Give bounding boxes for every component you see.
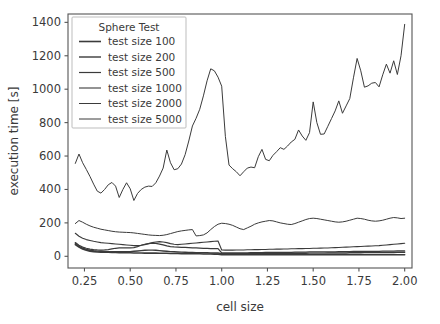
legend-label-test-size-500: test size 500 bbox=[108, 66, 175, 78]
chart-legend: Sphere Test test size 100test size 200te… bbox=[72, 17, 186, 128]
y-tick-label: 800 bbox=[39, 116, 61, 130]
y-tick-label: 0 bbox=[54, 249, 61, 263]
legend-label-test-size-1000: test size 1000 bbox=[108, 82, 182, 94]
x-tick-label: 1.25 bbox=[255, 274, 281, 288]
legend-label-test-size-100: test size 100 bbox=[108, 35, 175, 47]
x-tick-label: 0.75 bbox=[163, 274, 189, 288]
x-tick-label: 0.25 bbox=[72, 274, 98, 288]
legend-label-test-size-2000: test size 2000 bbox=[108, 97, 182, 109]
legend-title: Sphere Test bbox=[98, 21, 159, 33]
y-tick-label: 1200 bbox=[32, 49, 61, 63]
chart-figure: 0200400600800100012001400 0.250.500.751.… bbox=[0, 0, 440, 324]
x-tick-label: 2.00 bbox=[392, 274, 418, 288]
x-tick-label: 1.00 bbox=[209, 274, 235, 288]
x-tick-label: 0.50 bbox=[117, 274, 143, 288]
y-tick-label: 1400 bbox=[32, 15, 61, 29]
x-axis-title: cell size bbox=[216, 300, 264, 314]
x-tick-label: 1.50 bbox=[300, 274, 326, 288]
y-axis-title: execution time [s] bbox=[7, 87, 21, 196]
y-tick-label: 600 bbox=[39, 149, 61, 163]
legend-label-test-size-5000: test size 5000 bbox=[108, 113, 182, 125]
y-tick-label: 400 bbox=[39, 182, 61, 196]
legend-label-test-size-200: test size 200 bbox=[108, 51, 175, 63]
y-tick-label: 1000 bbox=[32, 82, 61, 96]
y-tick-label: 200 bbox=[39, 216, 61, 230]
x-tick-label: 1.75 bbox=[346, 274, 372, 288]
line-chart-canvas: 0200400600800100012001400 0.250.500.751.… bbox=[0, 0, 440, 324]
